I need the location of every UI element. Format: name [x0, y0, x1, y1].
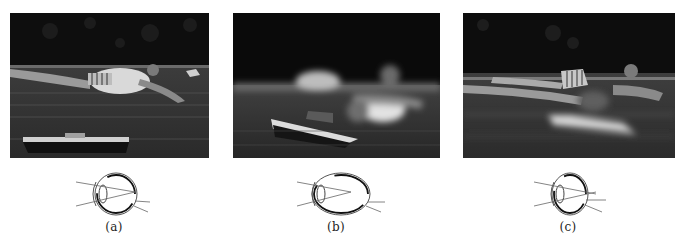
photo-farsighted-vision — [463, 13, 675, 158]
pool-scene-far-focus — [463, 13, 675, 158]
panel-label-c: (c) — [553, 220, 583, 234]
eye-diagram-hyperopic — [530, 168, 610, 220]
panel-c: (c) — [0, 0, 681, 242]
